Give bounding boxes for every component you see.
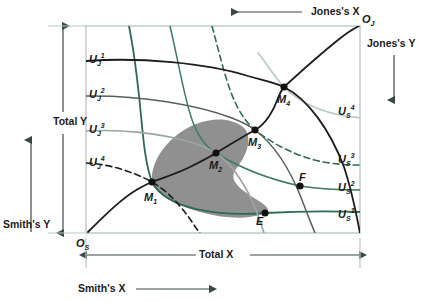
- point-label-f: F: [299, 172, 306, 183]
- point-label-m4: M4: [277, 94, 290, 107]
- curve-label-uj1: UJ1: [89, 52, 105, 67]
- curve-label-uj4: UJ4: [89, 155, 105, 170]
- curve-label-uj3: UJ3: [89, 122, 105, 137]
- origin-label-smith: OS: [76, 238, 89, 251]
- point-label-m2: M2: [209, 160, 222, 173]
- point-m2: [212, 149, 219, 156]
- origin-label-jones: OJ: [362, 14, 374, 27]
- edgeworth-box-figure: Jones's X Jones's Y Smith's Y Smith's X …: [0, 0, 427, 302]
- measure-label-total-y: Total Y: [53, 116, 87, 127]
- point-m1: [148, 178, 155, 185]
- point-label-e: E: [256, 216, 263, 227]
- point-m4: [280, 83, 287, 90]
- curve-label-us2: US2: [338, 180, 355, 195]
- curve-label-us1: US1: [338, 207, 355, 222]
- axis-label-jones-y: Jones's Y: [367, 38, 415, 49]
- measure-label-total-x: Total X: [199, 249, 233, 260]
- point-label-m3: M3: [248, 137, 261, 150]
- curve-label-us3: US3: [338, 152, 355, 167]
- total-y-measure: [48, 26, 86, 233]
- point-m3: [251, 126, 258, 133]
- point-f: [296, 182, 303, 189]
- axis-label-smith-y: Smith's Y: [3, 219, 50, 230]
- point-label-m1: M1: [144, 192, 157, 205]
- curve-label-uj2: UJ2: [89, 87, 105, 102]
- axis-label-smith-x: Smith's X: [78, 283, 125, 294]
- axis-label-jones-x: Jones's X: [311, 6, 360, 17]
- curve-label-us4: US4: [338, 104, 355, 119]
